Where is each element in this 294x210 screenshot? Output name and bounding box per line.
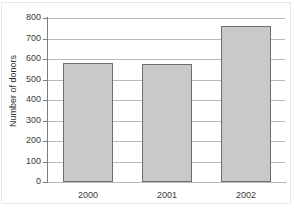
y-axis-tick-label: 200 <box>11 136 41 145</box>
y-axis-tick-label: 300 <box>11 116 41 125</box>
y-axis-tick <box>43 182 48 183</box>
y-axis-tick <box>43 162 48 163</box>
bar <box>142 64 192 182</box>
y-axis-tick-label: 700 <box>11 34 41 43</box>
y-axis-tick <box>43 80 48 81</box>
y-axis-tick <box>43 141 48 142</box>
x-axis-tick-label: 2001 <box>142 190 192 200</box>
y-axis-tick-label: 100 <box>11 157 41 166</box>
y-axis-tick <box>43 100 48 101</box>
x-axis-tick-label: 2002 <box>221 190 271 200</box>
bar <box>63 63 113 182</box>
y-axis-tick-label: 500 <box>11 75 41 84</box>
y-axis-tick-label: 0 <box>11 177 41 186</box>
y-axis-tick <box>43 59 48 60</box>
y-axis-tick <box>43 121 48 122</box>
y-axis-tick <box>43 39 48 40</box>
y-axis-tick-label: 400 <box>11 95 41 104</box>
bar <box>221 26 271 182</box>
y-axis-tick-label: 600 <box>11 54 41 63</box>
y-axis-tick-label: 800 <box>11 13 41 22</box>
gridline <box>48 18 285 19</box>
x-axis-tick-label: 2000 <box>63 190 113 200</box>
gridline <box>48 182 285 183</box>
bar-chart-figure: Number of donors 01002003004005006007008… <box>0 0 294 210</box>
y-axis-tick <box>43 18 48 19</box>
